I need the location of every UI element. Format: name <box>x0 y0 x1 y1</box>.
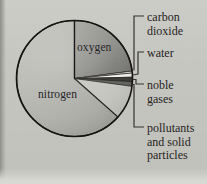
callout-carbon-dioxide-line2: dioxide <box>147 25 183 39</box>
leader-line-water <box>133 52 144 75</box>
callout-noble-gases-line1: noble <box>147 79 174 93</box>
callout-pollutants-line1: pollutants <box>147 122 194 136</box>
callout-pollutants: pollutants and solid particles <box>147 122 194 163</box>
callout-pollutants-line3: particles <box>147 149 194 163</box>
callout-water-line1: water <box>147 47 174 61</box>
callout-pollutants-line2: and solid <box>147 136 194 150</box>
pie-chart-figure: nitrogen oxygen carbon dioxide water nob… <box>0 0 207 184</box>
leader-line-noble-gases <box>133 80 144 85</box>
leader-line-carbon-dioxide <box>134 16 144 71</box>
pie-label-nitrogen: nitrogen <box>38 88 77 100</box>
pie-label-oxygen: oxygen <box>77 41 111 53</box>
callout-noble-gases: noble gases <box>147 79 174 106</box>
callout-carbon-dioxide-line1: carbon <box>147 11 183 25</box>
leader-line-pollutants <box>132 85 144 128</box>
callout-carbon-dioxide: carbon dioxide <box>147 11 183 38</box>
callout-noble-gases-line2: gases <box>147 93 174 107</box>
callout-water: water <box>147 47 174 61</box>
